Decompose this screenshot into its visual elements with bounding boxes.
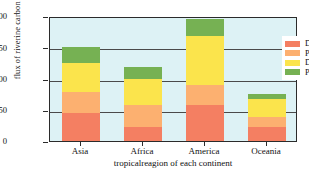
legend-swatch-dic bbox=[285, 60, 300, 66]
y-tick-label: 150 bbox=[0, 44, 7, 53]
legend-item[interactable]: DOC bbox=[285, 39, 309, 49]
chart-legend: DOCPOCDICPIC bbox=[282, 36, 309, 80]
bar-segment-poc[interactable] bbox=[248, 117, 286, 127]
legend-item[interactable]: POC bbox=[285, 49, 309, 59]
y-axis-title-text: flux of riverine carbon (TgC yr bbox=[13, 0, 22, 79]
chart-figure: flux of riverine carbon (TgC yr-1) 05010… bbox=[0, 0, 309, 173]
bar-segment-dic[interactable] bbox=[248, 99, 286, 118]
bar-segment-pic[interactable] bbox=[186, 19, 224, 36]
bar-segment-pic[interactable] bbox=[248, 94, 286, 98]
y-tick-mark bbox=[43, 142, 48, 143]
y-tick-label: 0 bbox=[0, 137, 7, 146]
bar-segment-poc[interactable] bbox=[124, 105, 162, 128]
legend-label: DIC bbox=[305, 58, 309, 68]
bar-segment-poc[interactable] bbox=[62, 92, 100, 113]
y-tick-label: 50 bbox=[0, 106, 7, 115]
bar-segment-dic[interactable] bbox=[62, 63, 100, 92]
y-tick-mark bbox=[43, 48, 48, 49]
x-tick-label: Asia bbox=[45, 146, 115, 156]
x-tick-label: Africa bbox=[107, 146, 177, 156]
x-tick-label: Oceania bbox=[231, 146, 301, 156]
bar-segment-dic[interactable] bbox=[186, 36, 224, 85]
bar-segment-doc[interactable] bbox=[62, 113, 100, 141]
x-tick-label: America bbox=[169, 146, 239, 156]
bar-segment-doc[interactable] bbox=[124, 127, 162, 141]
plot-area: DOCPOCDICPIC bbox=[49, 17, 297, 142]
legend-swatch-doc bbox=[285, 41, 300, 47]
bar-series-container bbox=[50, 18, 296, 141]
y-tick-mark bbox=[43, 80, 48, 81]
bar-segment-dic[interactable] bbox=[124, 79, 162, 105]
legend-item[interactable]: PIC bbox=[285, 68, 309, 78]
y-tick-mark bbox=[43, 111, 48, 112]
legend-item[interactable]: DIC bbox=[285, 58, 309, 68]
legend-label: PIC bbox=[305, 68, 309, 78]
x-axis-title: tropicalreagion of each continent bbox=[49, 158, 297, 168]
legend-swatch-pic bbox=[285, 69, 300, 75]
y-tick-mark bbox=[43, 17, 48, 18]
y-axis-title: flux of riverine carbon (TgC yr-1) bbox=[12, 0, 23, 90]
y-tick-label: 200 bbox=[0, 12, 7, 21]
bar-segment-doc[interactable] bbox=[248, 127, 286, 141]
legend-label: POC bbox=[305, 49, 309, 59]
y-tick-label: 100 bbox=[0, 75, 7, 84]
bar-segment-doc[interactable] bbox=[186, 105, 224, 141]
bar-segment-pic[interactable] bbox=[124, 67, 162, 78]
legend-label: DOC bbox=[305, 39, 309, 49]
legend-swatch-poc bbox=[285, 50, 300, 56]
bar-segment-poc[interactable] bbox=[186, 85, 224, 106]
bar-segment-pic[interactable] bbox=[62, 47, 100, 63]
